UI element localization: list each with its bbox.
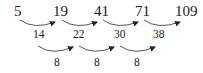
arrow-icon <box>120 46 155 51</box>
arrow-icon <box>103 20 138 26</box>
sequence-term: 109 <box>175 4 198 19</box>
arrow-icon <box>20 20 55 26</box>
sequence-term: 41 <box>94 4 109 19</box>
arrow-icon <box>144 20 180 26</box>
first-difference: 14 <box>33 29 45 41</box>
row1-arrows <box>20 20 180 26</box>
first-difference: 38 <box>153 29 165 41</box>
arrow-icon <box>38 46 73 51</box>
arrow-icon <box>62 20 97 26</box>
second-difference: 8 <box>134 57 140 69</box>
second-difference: 8 <box>94 57 100 69</box>
sequence-term: 5 <box>14 4 22 19</box>
first-difference: 22 <box>73 29 85 41</box>
row2-arrows <box>38 46 155 51</box>
sequence-term: 19 <box>53 4 68 19</box>
second-difference: 8 <box>54 57 60 69</box>
first-difference: 30 <box>114 29 126 41</box>
sequence-term: 71 <box>135 4 150 19</box>
arrow-icon <box>79 46 114 51</box>
